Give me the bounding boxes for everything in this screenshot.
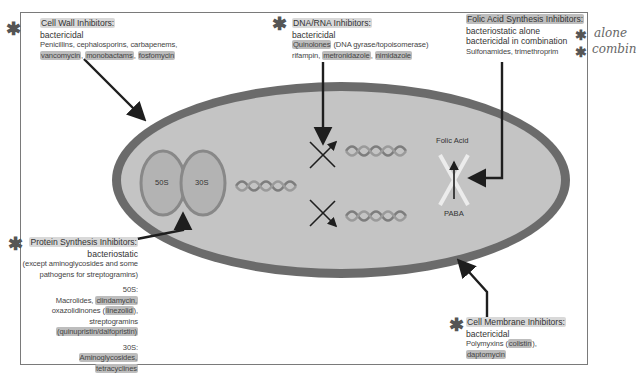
handwritten-note-alone: alone (594, 26, 627, 40)
cell-membrane-inhibitors-box: Cell Membrane Inhibitors: bactericidal P… (466, 317, 590, 360)
drug-oxazolidinones: oxazolidinones ( (52, 306, 105, 315)
drug-linezolid: linezolid (105, 306, 134, 315)
cell-wall-drugs: Penicillins, cephalosporins, carbapenems… (40, 40, 240, 51)
drug-fosfomycin: fosfomycin (138, 51, 175, 60)
cell-wall-title: Cell Wall Inhibitors: (40, 18, 115, 28)
asterisk-icon: ✱ (575, 43, 587, 61)
drug-polymyxins: Polymyxins ( (466, 339, 508, 348)
asterisk-icon: ✱ (575, 26, 587, 44)
drug-nimidazole: nimidazole (375, 51, 412, 60)
cell-membrane-arrow (460, 262, 487, 318)
folic-acid-label: Folic Acid (436, 136, 469, 145)
cell-wall-kind: bactericidal (40, 30, 240, 41)
paba-label: PABA (444, 209, 464, 218)
quinolones-note: (DNA gyrase/topoisomerase) (333, 40, 428, 49)
ribosome-30s-label: 30S (195, 178, 209, 187)
cell-wall-inhibitors-box: Cell Wall Inhibitors: bactericidal Penic… (40, 18, 240, 61)
protein-synthesis-note-2: pathogens for streptogramins) (20, 270, 138, 281)
ribosome-50s-heading: 50S: (20, 285, 138, 296)
drug-colistin: colistin (508, 339, 532, 348)
paren-close: ), (532, 339, 536, 348)
drug-quinupristin-dalfopristin: (quinupristin/dalfopristin) (56, 327, 138, 336)
drug-rifampin: rifampin, (292, 51, 320, 60)
protein-synthesis-kind: bacteriostatic (20, 249, 138, 260)
ribosome-50s-label: 50S (155, 178, 169, 187)
asterisk-icon: ✱ (449, 316, 464, 334)
protein-synthesis-inhibitors-box: Protein Synthesis Inhibitors: bacteriost… (20, 237, 138, 374)
cell-membrane-kind: bactericidal (466, 329, 590, 340)
dna-rna-title: DNA/RNA Inhibitors: (292, 18, 372, 28)
drug-vancomycin: vancomycin (40, 51, 81, 60)
folic-acid-title: Folic Acid Synthesis Inhibitors: (466, 14, 584, 24)
handwritten-note-combination: combin (592, 42, 637, 56)
ribosome-30s-heading: 30S: (20, 343, 138, 354)
asterisk-icon: ✱ (6, 20, 21, 38)
dna-rna-kind: bactericidal (292, 30, 462, 41)
drug-metronidazole: metronidazole (322, 51, 370, 60)
drug-aminoglycosides: Aminoglycosides, (79, 353, 139, 362)
cell-membrane-title: Cell Membrane Inhibitors: (466, 317, 566, 327)
protein-synthesis-note-1: (except aminoglycosides and some (20, 259, 138, 270)
drug-daptomycin: daptomycin (466, 350, 506, 359)
paren-close: ), (134, 306, 138, 315)
protein-synthesis-title: Protein Synthesis Inhibitors: (29, 237, 138, 247)
dna-rna-inhibitors-box: DNA/RNA Inhibitors: bactericidal Quinolo… (292, 18, 462, 61)
drug-tetracyclines: tetracyclines (95, 364, 138, 373)
drug-streptogramins: streptogramins (20, 317, 138, 328)
drug-monobactams: monobactams (85, 51, 134, 60)
asterisk-icon: ✱ (8, 235, 23, 253)
cell-wall-arrow (84, 59, 143, 118)
drug-quinolones: Quinolones (292, 40, 331, 49)
drug-macrolides: Macrolides, (56, 296, 94, 305)
drug-clindamycin: clindamycin, (95, 296, 138, 305)
asterisk-icon: ✱ (272, 15, 287, 33)
